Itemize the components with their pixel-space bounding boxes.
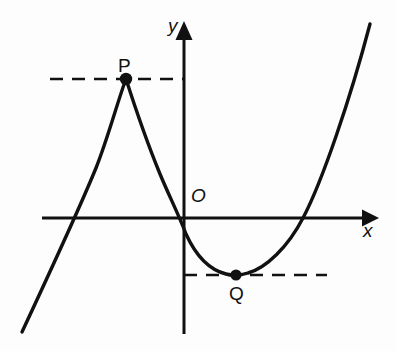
point-marker-q [230,269,241,280]
graph-figure: P Q O y x [0,0,396,351]
curve-path [22,24,370,332]
point-label-p: P [118,56,131,75]
graph-canvas [0,0,396,351]
point-label-q: Q [229,284,244,303]
y-axis-arrow-icon [176,21,193,40]
origin-label: O [191,186,206,205]
y-axis-label: y [168,16,178,35]
x-axis-label: x [363,221,373,240]
